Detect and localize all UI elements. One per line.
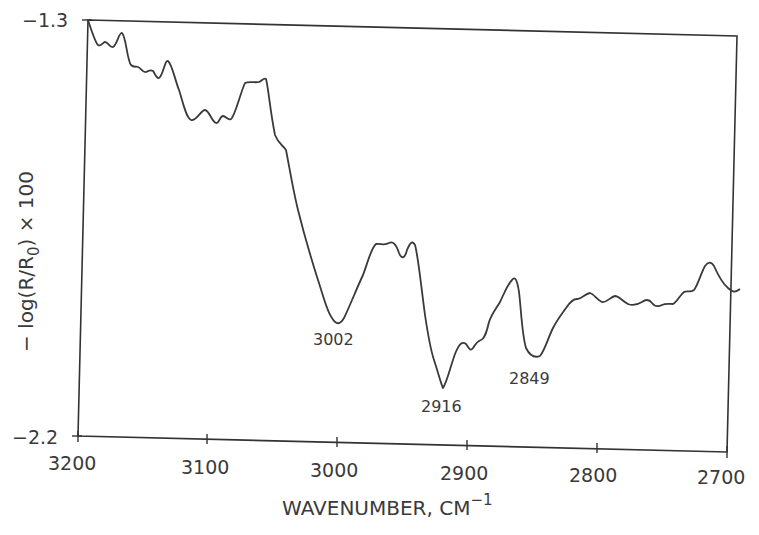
peak-label-3002: 3002 [313, 330, 354, 349]
y-axis-title: − log(R/R0) × 100 [14, 171, 43, 352]
ftir-spectrum-chart: −1.3 −2.2 3200 3100 3000 2900 2800 2700 … [0, 0, 759, 535]
y-tick-label-bottom: −2.2 [12, 426, 58, 448]
x-axis-title: WAVENUMBER, CM−1 [282, 491, 493, 520]
x-tick-label-3000: 3000 [310, 459, 358, 481]
x-tick-label-3200: 3200 [48, 452, 96, 474]
y-tick-label-top: −1.3 [22, 9, 68, 31]
spectrum-line [88, 20, 740, 388]
peak-label-2916: 2916 [421, 397, 462, 416]
x-tick-label-2700: 2700 [697, 466, 745, 488]
x-tick-label-2800: 2800 [569, 464, 617, 486]
x-tick-label-2900: 2900 [440, 462, 488, 484]
peak-label-2849: 2849 [509, 369, 550, 388]
x-tick-label-3100: 3100 [181, 456, 229, 478]
